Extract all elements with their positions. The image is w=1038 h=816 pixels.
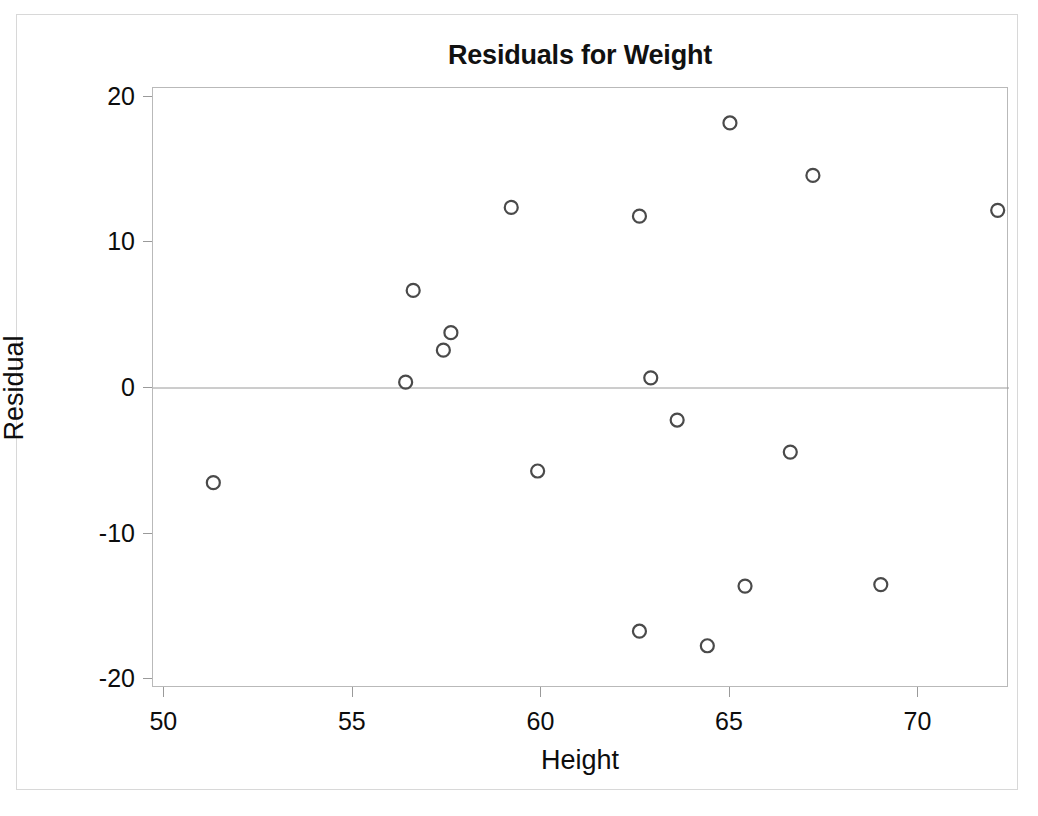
y-axis-label: Residual bbox=[0, 335, 30, 440]
y-tick-mark bbox=[143, 96, 152, 97]
data-point bbox=[633, 625, 646, 638]
x-tick-label: 55 bbox=[338, 707, 366, 736]
data-point bbox=[207, 476, 220, 489]
data-point bbox=[701, 639, 714, 652]
x-tick-label: 60 bbox=[526, 707, 554, 736]
data-point bbox=[644, 371, 657, 384]
y-tick-mark bbox=[143, 678, 152, 679]
x-tick-mark bbox=[917, 687, 918, 697]
x-tick-mark bbox=[540, 687, 541, 697]
y-tick-mark bbox=[143, 387, 152, 388]
y-tick-label: 0 bbox=[22, 373, 135, 402]
plot-area bbox=[152, 87, 1008, 687]
x-tick-mark bbox=[729, 687, 730, 697]
x-axis-label: Height bbox=[152, 745, 1008, 776]
data-point bbox=[739, 580, 752, 593]
y-tick-label: 10 bbox=[22, 227, 135, 256]
page-title: Residuals for Weight bbox=[152, 40, 1008, 71]
x-tick-label: 50 bbox=[149, 707, 177, 736]
y-tick-label: -20 bbox=[22, 664, 135, 693]
y-tick-label: 20 bbox=[22, 81, 135, 110]
data-point bbox=[874, 578, 887, 591]
data-point bbox=[531, 465, 544, 478]
y-tick-mark bbox=[143, 533, 152, 534]
x-tick-label: 65 bbox=[715, 707, 743, 736]
x-tick-mark bbox=[163, 687, 164, 697]
y-tick-label: -10 bbox=[22, 518, 135, 547]
data-point bbox=[399, 376, 412, 389]
scatter-canvas bbox=[153, 88, 1009, 688]
x-tick-label: 70 bbox=[904, 707, 932, 736]
data-point bbox=[633, 210, 646, 223]
residual-plot-figure: Residuals for Weight 20100-10-20 5055606… bbox=[0, 0, 1038, 816]
data-point bbox=[671, 414, 684, 427]
data-point bbox=[991, 204, 1004, 217]
data-point bbox=[407, 284, 420, 297]
data-points-group bbox=[207, 116, 1004, 652]
data-point bbox=[505, 201, 518, 214]
data-point bbox=[437, 344, 450, 357]
data-point bbox=[444, 326, 457, 339]
data-point bbox=[784, 446, 797, 459]
x-tick-mark bbox=[352, 687, 353, 697]
data-point bbox=[806, 169, 819, 182]
data-point bbox=[723, 116, 736, 129]
y-tick-mark bbox=[143, 241, 152, 242]
